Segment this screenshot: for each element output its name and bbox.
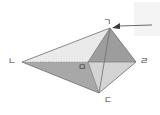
vertex-label-ma: ㅁ	[78, 63, 86, 72]
solid-figure-drawing	[0, 0, 160, 115]
vertex-label-ga: ㄱ	[103, 18, 111, 27]
annotation-arrow-head	[112, 23, 120, 29]
annotation-arrow-shaft	[118, 25, 152, 26]
vertex-label-na: ㄴ	[8, 57, 16, 66]
vertex-label-ra: ㄹ	[140, 57, 148, 66]
geometry-figure-canvas: ㄱ ㄴ ㄷ ㄹ ㅁ	[0, 0, 160, 115]
vertex-label-da: ㄷ	[104, 96, 112, 105]
